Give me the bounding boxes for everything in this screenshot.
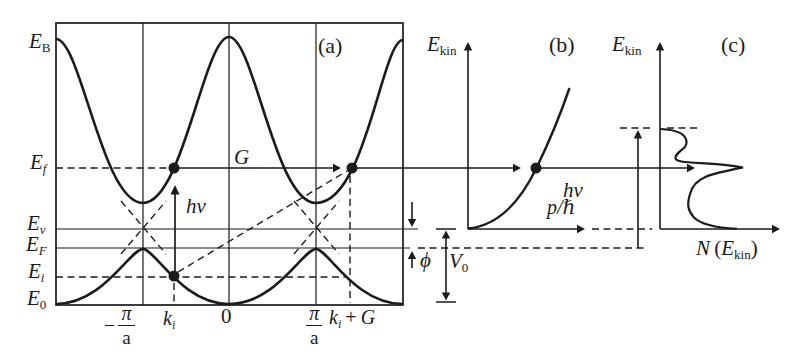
- panel-c-axes: [656, 42, 780, 233]
- ekin-c-arrowhead: [656, 42, 664, 51]
- label-ki-plus-g: ki+G: [329, 307, 375, 327]
- final-state-dot: [169, 163, 180, 174]
- label-ki: ki: [163, 308, 175, 328]
- label-intensity-axis: N (Ekin): [696, 238, 758, 259]
- hv-arrow-panel-c: [634, 130, 642, 248]
- intensity-arrowhead: [772, 225, 780, 233]
- label-ekin-b: Ekin: [427, 34, 456, 55]
- label-hv-panel-a: hν: [186, 196, 206, 217]
- panel-c-tag: (c): [721, 34, 745, 56]
- panel-b-tag: (b): [549, 34, 575, 56]
- v0-up-arrowhead: [442, 231, 450, 239]
- phi-up-arrowhead: [408, 251, 416, 259]
- label-e-zero: E0: [27, 288, 46, 309]
- momentum-arrowhead: [577, 225, 585, 233]
- label-e-vacuum: Ev: [27, 213, 46, 234]
- phi-down-arrowhead: [408, 219, 416, 227]
- g-arrowhead: [333, 164, 341, 172]
- ekin-b-arrowhead: [464, 42, 472, 51]
- hv-c-arrowhead: [634, 130, 642, 139]
- transition-arrow-line: [174, 164, 695, 172]
- free-electron-state-dot: [531, 163, 542, 174]
- label-e-initial: Ei: [28, 261, 44, 282]
- label-e-f-final: Ef: [30, 152, 46, 173]
- label-minus-pi-a: − πa: [104, 303, 135, 347]
- v0-down-arrowhead: [442, 293, 450, 301]
- label-e-b: EB: [29, 31, 51, 52]
- label-g-vector: G: [234, 147, 249, 168]
- hv-arrowhead: [171, 185, 180, 195]
- label-work-function-phi: ϕ: [420, 250, 431, 271]
- dashed-guides: [56, 128, 701, 303]
- to-parabola-arrowhead: [513, 164, 521, 172]
- umklapp-final-state-dot: [347, 163, 358, 174]
- work-function-arrows: [408, 202, 416, 268]
- label-e-fermi: EF: [26, 234, 47, 255]
- label-hv-panel-c: hν: [563, 180, 583, 201]
- label-ekin-c: Ekin: [612, 34, 641, 55]
- label-inner-potential-v0: V0: [449, 251, 468, 272]
- initial-state-dot: [169, 271, 180, 282]
- zone-boundary-gridlines: [143, 23, 316, 305]
- spectrum-curve: [661, 129, 744, 229]
- photoemission-band-diagram: EB Ef Ev EF Ei E0 (a) G hν − πa ki 0 πa …: [0, 0, 798, 361]
- label-k-zero: 0: [221, 306, 232, 327]
- label-pi-a: πa: [303, 303, 322, 347]
- to-spectrum-arrowhead: [687, 164, 695, 172]
- state-dots: [169, 163, 542, 282]
- umklapp-transition-dashed-line: [178, 171, 347, 272]
- panel-a-tag: (a): [318, 35, 342, 57]
